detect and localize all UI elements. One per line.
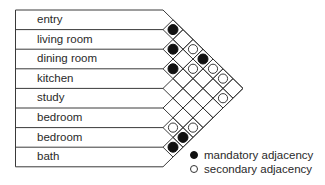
matrix-cell — [173, 88, 193, 108]
mandatory-adjacency-dot — [168, 44, 178, 54]
mandatory-adjacency-dot — [168, 64, 178, 74]
room-label-dining-room: dining room — [37, 49, 97, 69]
legend-mandatory-label: mandatory adjacency — [204, 148, 313, 162]
mandatory-adjacency-dot — [168, 142, 178, 152]
secondary-adjacency-circle — [188, 45, 197, 54]
mandatory-adjacency-dot — [178, 132, 188, 142]
mandatory-adjacency-dot — [198, 54, 208, 64]
matrix-cell — [163, 79, 183, 99]
legend-secondary-label: secondary adjacency — [204, 162, 312, 176]
secondary-adjacency-circle — [188, 123, 197, 132]
secondary-adjacency-circle — [188, 64, 197, 73]
secondary-adjacency-circle — [168, 123, 177, 132]
room-label-entry: entry — [37, 10, 63, 30]
matrix-cell — [193, 88, 213, 108]
secondary-adjacency-circle — [218, 94, 227, 103]
legend-mandatory: mandatory adjacency — [190, 148, 313, 162]
secondary-adjacency-circle — [208, 64, 217, 73]
mandatory-adjacency-dot — [168, 25, 178, 35]
room-label-living-room: living room — [37, 30, 93, 50]
legend-secondary: secondary adjacency — [190, 162, 312, 176]
room-label-kitchen: kitchen — [37, 69, 73, 89]
matrix-cell — [183, 79, 203, 99]
room-label-bedroom-1: bedroom — [37, 108, 82, 128]
filled-circle-icon — [190, 151, 198, 159]
room-label-bedroom-2: bedroom — [37, 128, 82, 148]
open-circle-icon — [190, 165, 198, 173]
room-label-bath: bath — [37, 147, 59, 167]
matrix-cell — [163, 98, 183, 118]
room-label-study: study — [37, 88, 65, 108]
secondary-adjacency-circle — [218, 74, 227, 83]
matrix-cell — [183, 98, 203, 118]
